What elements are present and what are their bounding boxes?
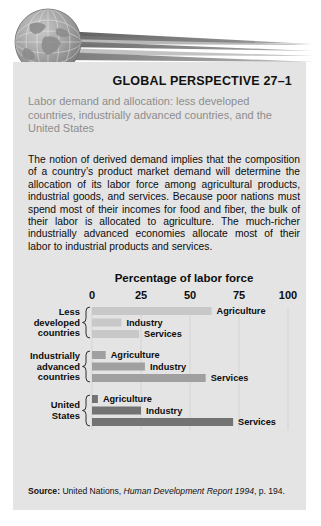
group-brace-2: [83, 395, 91, 426]
source-prefix: Source:: [28, 486, 60, 496]
source-after: , p. 194.: [254, 486, 285, 496]
bar-0-services: [92, 330, 139, 338]
bar-label-2-services: Services: [238, 417, 276, 427]
bar-label-2-agriculture: Agriculture: [103, 394, 152, 404]
bar-label-0-services: Services: [144, 329, 182, 339]
bar-label-0-agriculture: Agriculture: [217, 306, 266, 316]
global-perspective-box: GLOBAL PERSPECTIVE 27–1 Labor demand and…: [0, 0, 321, 526]
bar-2-agriculture: [92, 395, 98, 403]
bar-0-agriculture: [92, 307, 212, 315]
chart-title: Percentage of labor force: [68, 272, 300, 284]
body-paragraph: The notion of derived demand implies tha…: [28, 154, 300, 253]
labor-force-chart: Percentage of labor force 0255075100Agri…: [13, 272, 306, 477]
x-tick-label-25: 25: [135, 289, 147, 301]
x-tick-label-100: 100: [279, 289, 297, 301]
group-label-1-line-1: advanced: [37, 361, 81, 372]
source-line: Source: United Nations, Human Developmen…: [28, 486, 300, 497]
x-tick-label-0: 0: [89, 289, 95, 301]
x-tick-label-75: 75: [233, 289, 245, 301]
bar-label-1-services: Services: [211, 373, 249, 383]
bar-1-industry: [92, 363, 145, 371]
group-label-2-line-1: States: [52, 410, 80, 421]
group-label-0-line-0: Less: [59, 306, 80, 317]
bar-2-services: [92, 418, 233, 426]
bar-1-agriculture: [92, 351, 106, 359]
bar-label-0-industry: Industry: [126, 318, 163, 328]
page-title: GLOBAL PERSPECTIVE 27–1: [13, 74, 292, 88]
group-brace-0: [83, 307, 91, 338]
group-brace-1: [83, 351, 91, 382]
group-label-1-line-0: Industrially: [30, 350, 81, 361]
group-label-0-line-1: developed: [34, 317, 81, 328]
content-panel: GLOBAL PERSPECTIVE 27–1 Labor demand and…: [13, 62, 306, 510]
bar-label-2-industry: Industry: [146, 406, 183, 416]
source-before: United Nations,: [60, 486, 124, 496]
subtitle: Labor demand and allocation: less develo…: [28, 95, 296, 136]
source-title: Human Development Report 1994: [124, 486, 254, 496]
group-label-0-line-2: countries: [38, 327, 80, 338]
group-label-1-line-2: countries: [38, 371, 80, 382]
bar-2-industry: [92, 407, 141, 415]
bar-0-industry: [92, 319, 121, 327]
bar-1-services: [92, 374, 206, 382]
x-tick-label-50: 50: [184, 289, 196, 301]
chart-svg: 0255075100AgricultureIndustryServicesLes…: [13, 286, 306, 476]
bar-label-1-agriculture: Agriculture: [111, 350, 160, 360]
bar-label-1-industry: Industry: [150, 362, 187, 372]
group-label-2-line-0: United: [51, 399, 80, 410]
